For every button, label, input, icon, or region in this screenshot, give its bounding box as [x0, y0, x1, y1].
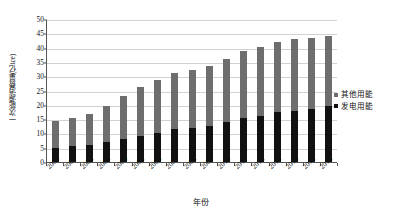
y-axis-tick-label: 10 [37, 131, 47, 138]
bar-segment-power-generation [308, 109, 315, 162]
bar-slot [184, 20, 201, 162]
bar-slot [252, 20, 269, 162]
bar-segment-other-use [103, 106, 110, 142]
bar-segment-other-use [274, 42, 281, 112]
stacked-bar[interactable] [291, 39, 298, 162]
bar-segment-other-use [240, 51, 247, 118]
y-axis-tick-label: 25 [37, 88, 47, 95]
bar-segment-other-use [120, 96, 127, 139]
x-axis-tick-mark [337, 163, 338, 166]
x-axis-tick-labels: 2000200120022003200420052006200720082009… [46, 166, 337, 192]
legend-item-label: 发电用能 [341, 103, 373, 111]
x-axis-title: 年份 [0, 196, 401, 207]
stacked-bar[interactable] [137, 87, 144, 162]
bar-slot [81, 20, 98, 162]
bar-slot [201, 20, 218, 162]
chart-legend: 其他用能发电用能 [334, 91, 373, 110]
legend-item-label: 其他用能 [341, 91, 373, 99]
stacked-bar[interactable] [257, 47, 264, 162]
y-axis-tick-label: 35 [37, 59, 47, 66]
bar-slot [149, 20, 166, 162]
bar-segment-power-generation [325, 106, 332, 162]
legend-swatch-icon [334, 104, 338, 108]
y-axis-tick-label: 15 [37, 116, 47, 123]
plot-area: 50454035302520151050 [46, 20, 337, 163]
y-axis-tick-label: 30 [37, 73, 47, 80]
bar-slot [98, 20, 115, 162]
bar-segment-other-use [308, 38, 315, 109]
bar-slot [64, 20, 81, 162]
bar-segment-other-use [86, 114, 93, 145]
stacked-bar[interactable] [308, 38, 315, 162]
bar-slot [235, 20, 252, 162]
bar-segment-other-use [137, 87, 144, 136]
bar-segment-other-use [154, 80, 161, 133]
stacked-bar[interactable] [189, 70, 196, 162]
y-axis-title: 一次能源消费量(亿tce) [6, 18, 20, 158]
bar-slot [286, 20, 303, 162]
bar-segment-other-use [171, 73, 178, 129]
stacked-bar[interactable] [206, 66, 213, 162]
bar-segment-other-use [223, 59, 230, 122]
stacked-bar[interactable] [154, 80, 161, 162]
bar-slot [269, 20, 286, 162]
bar-segment-other-use [206, 66, 213, 126]
bar-slot [132, 20, 149, 162]
stacked-bar[interactable] [325, 36, 332, 162]
stacked-bar[interactable] [240, 51, 247, 162]
primary-energy-consumption-chart: 一次能源消费量(亿tce) 50454035302520151050 20002… [0, 0, 401, 219]
stacked-bar[interactable] [103, 106, 110, 162]
stacked-bar[interactable] [120, 96, 127, 162]
bar-slot [166, 20, 183, 162]
bar-segment-other-use [257, 47, 264, 116]
y-axis-tick-label: 40 [37, 45, 47, 52]
legend-item[interactable]: 发电用能 [334, 103, 373, 111]
stacked-bar[interactable] [171, 73, 178, 163]
y-axis-tick-label: 50 [37, 16, 47, 23]
y-axis-tick-label: 20 [37, 102, 47, 109]
bar-slot [115, 20, 132, 162]
bar-slot [218, 20, 235, 162]
bar-segment-other-use [189, 70, 196, 128]
stacked-bar[interactable] [223, 59, 230, 162]
bar-segment-power-generation [274, 112, 281, 162]
stacked-bar[interactable] [274, 42, 281, 162]
bar-series-group [47, 20, 337, 162]
bar-segment-other-use [52, 121, 59, 148]
bar-segment-other-use [291, 39, 298, 111]
y-axis-tick-label: 5 [40, 145, 47, 152]
bar-segment-other-use [325, 36, 332, 105]
legend-item[interactable]: 其他用能 [334, 91, 373, 99]
y-axis-tick-label: 45 [37, 31, 47, 38]
legend-swatch-icon [334, 93, 338, 97]
bar-segment-power-generation [291, 111, 298, 162]
bar-segment-other-use [69, 118, 76, 146]
bar-slot [303, 20, 320, 162]
bar-slot [47, 20, 64, 162]
